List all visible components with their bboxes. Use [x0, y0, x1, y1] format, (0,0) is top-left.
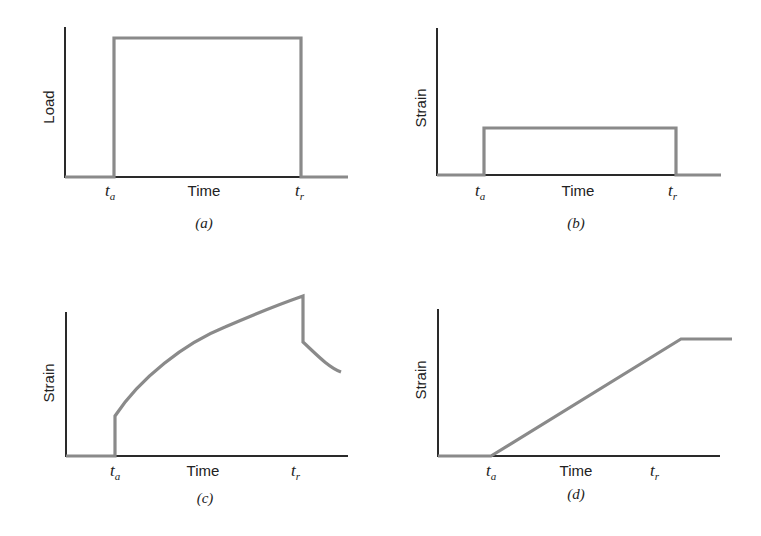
y-axis-label-b: Strain [412, 88, 429, 127]
y-axis-label-d: Strain [412, 360, 429, 399]
caption-b: (b) [567, 215, 585, 232]
strain-curve-d [438, 339, 732, 456]
y-axis-label-a: Load [40, 90, 57, 123]
tick-tr-a: tr [295, 181, 305, 202]
caption-a: (a) [195, 215, 213, 232]
x-axis-label-a: Time [188, 182, 221, 199]
load-curve-a [65, 38, 348, 177]
axes-a [65, 27, 348, 177]
strain-curve-b [437, 128, 721, 175]
x-axis-label-b: Time [562, 182, 595, 199]
figure-canvas: Load Time ta tr (a) Strain Time ta tr (b… [0, 0, 761, 536]
tick-ta-c: ta [110, 461, 121, 482]
tick-tr-b: tr [668, 181, 678, 202]
tick-tr-d: tr [650, 461, 660, 482]
caption-c: (c) [197, 490, 214, 507]
x-axis-label-c: Time [187, 462, 220, 479]
strain-curve-c [66, 296, 341, 456]
axes-b [437, 28, 721, 175]
caption-d: (d) [567, 486, 585, 503]
tick-ta-d: ta [486, 461, 497, 482]
axes-d [438, 309, 720, 456]
tick-ta-a: ta [105, 181, 116, 202]
panel-a: Load Time ta tr (a) [40, 27, 348, 232]
tick-tr-c: tr [291, 461, 301, 482]
panel-c: Strain Time ta tr (c) [40, 296, 348, 507]
y-axis-label-c: Strain [40, 363, 57, 402]
tick-ta-b: ta [475, 181, 486, 202]
x-axis-label-d: Time [560, 462, 593, 479]
panel-b: Strain Time ta tr (b) [412, 28, 721, 232]
panel-d: Strain Time ta tr (d) [412, 309, 732, 503]
